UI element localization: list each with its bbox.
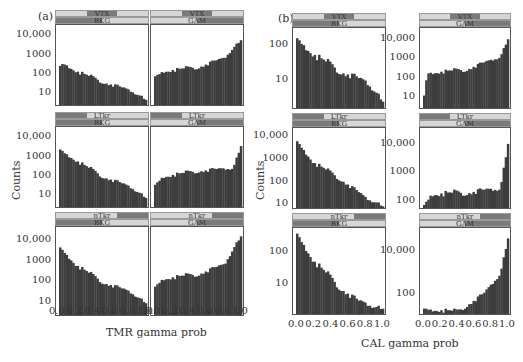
col-strip-gam: GAM	[419, 20, 511, 27]
strip-label: nTkr	[293, 213, 385, 220]
a-panel-ntkr-bkg	[55, 226, 149, 316]
strip-label: BKG	[56, 17, 148, 24]
x-tick-label: 0.4	[322, 318, 338, 329]
y-tick-label: 10,000	[375, 137, 415, 148]
row-strip-ntkr: nTkr	[150, 212, 244, 219]
b-panel-ltkr-gam	[419, 127, 511, 209]
histogram-bars	[293, 28, 386, 109]
x-tick-label: 0.8	[119, 305, 135, 316]
strip-label: VTX	[420, 13, 510, 20]
strip-label: VTX	[56, 10, 148, 17]
col-strip-bkg: BKG	[292, 20, 386, 27]
col-strip-bkg: BKG	[55, 17, 149, 24]
y-tick-label: 10	[248, 277, 288, 288]
strip-label: nTkr	[151, 212, 243, 219]
histogram-bars	[56, 127, 149, 208]
x-tick-label: 0.2	[432, 318, 448, 329]
b-panel-vtx-bkg	[292, 27, 386, 109]
histogram-bars	[151, 25, 244, 106]
strip-label: BKG	[56, 219, 148, 226]
y-tick-label: 10	[248, 73, 288, 84]
y-tick-label: 1000	[375, 165, 415, 176]
y-tick-label: 100	[375, 194, 415, 205]
row-strip-ltkr: LTkr	[150, 112, 244, 119]
strip-label: GAM	[420, 220, 510, 227]
y-tick-label: 10	[248, 197, 288, 208]
y-tick-label: 10	[11, 295, 51, 306]
row-strip-ntkr: nTkr	[55, 212, 149, 219]
y-tick-label: 1000	[11, 150, 51, 161]
x-tick-label: 0.2	[162, 305, 178, 316]
b-panel-vtx-gam	[419, 27, 511, 109]
col-strip-gam: GAM	[150, 17, 244, 24]
strip-label: BKG	[56, 119, 148, 126]
y-tick-label: 10,000	[11, 28, 51, 39]
y-tick-label: 10	[11, 86, 51, 97]
a-panel-vtx-gam	[150, 24, 244, 106]
histogram-bars	[420, 128, 511, 209]
col-strip-gam: GAM	[150, 119, 244, 126]
strip-label: LTkr	[151, 112, 243, 119]
col-strip-gam: GAM	[419, 120, 511, 127]
y-tick-label: 1000	[11, 48, 51, 59]
strip-label: nTkr	[56, 212, 148, 219]
y-tick-label: 10	[375, 90, 415, 101]
histogram-bars	[56, 227, 149, 316]
strip-label: LTkr	[420, 113, 510, 120]
strip-label: BKG	[293, 120, 385, 127]
a-x-axis-title: TMR gamma prob	[106, 326, 207, 339]
a-panel-ltkr-gam	[150, 126, 244, 208]
strip-label: BKG	[293, 20, 385, 27]
col-strip-bkg: BKG	[292, 120, 386, 127]
y-tick-label: 100	[11, 169, 51, 180]
histogram-bars	[420, 228, 511, 315]
strip-label: nTkr	[420, 213, 510, 220]
strip-label: GAM	[420, 120, 510, 127]
x-tick-label: 0.6	[197, 305, 213, 316]
row-strip-vtx: VTX	[150, 10, 244, 17]
b-panel-ntkr-bkg	[292, 227, 386, 315]
strip-label: GAM	[151, 17, 243, 24]
x-tick-label: 0.0	[415, 318, 431, 329]
strip-label: GAM	[151, 219, 243, 226]
histogram-bars	[151, 127, 244, 208]
y-tick-label: 10	[11, 188, 51, 199]
y-tick-label: 10,000	[11, 130, 51, 141]
b-panel-ntkr-gam	[419, 227, 511, 315]
col-strip-bkg: BKG	[55, 119, 149, 126]
y-tick-label: 100	[11, 274, 51, 285]
x-tick-label: 0.8	[357, 318, 373, 329]
x-tick-label: 1.0	[374, 318, 390, 329]
x-tick-label: 0.4	[84, 305, 100, 316]
histogram-bars	[151, 227, 244, 316]
row-strip-ltkr: LTkr	[419, 113, 511, 120]
strip-label: VTX	[151, 10, 243, 17]
b-x-axis-title: CAL gamma prob	[361, 337, 459, 350]
strip-label: LTkr	[293, 113, 385, 120]
a-panel-ntkr-gam	[150, 226, 244, 316]
y-tick-label: 100	[375, 287, 415, 298]
x-tick-label: 0.2	[67, 305, 83, 316]
x-tick-label: 1.0	[137, 305, 153, 316]
row-strip-ltkr: LTkr	[292, 113, 386, 120]
x-tick-label: 1.0	[499, 318, 515, 329]
y-tick-label: 100	[248, 175, 288, 186]
y-tick-label: 100	[248, 38, 288, 49]
x-tick-label: 0.0	[288, 318, 304, 329]
b-panel-ltkr-bkg	[292, 127, 386, 209]
strip-label: GAM	[151, 119, 243, 126]
strip-label: GAM	[420, 20, 510, 27]
y-tick-label: 100	[11, 67, 51, 78]
col-strip-bkg: BKG	[292, 220, 386, 227]
strip-label: BKG	[293, 220, 385, 227]
y-tick-label: 1000	[248, 152, 288, 163]
row-strip-vtx: VTX	[55, 10, 149, 17]
histogram-bars	[293, 228, 386, 315]
histogram-bars	[420, 28, 511, 109]
x-tick-label: 0.8	[482, 318, 498, 329]
row-strip-vtx: VTX	[292, 13, 386, 20]
y-tick-label: 100	[248, 245, 288, 256]
strip-label: LTkr	[56, 112, 148, 119]
y-tick-label: 10,000	[375, 32, 415, 43]
x-tick-label: 0.6	[340, 318, 356, 329]
